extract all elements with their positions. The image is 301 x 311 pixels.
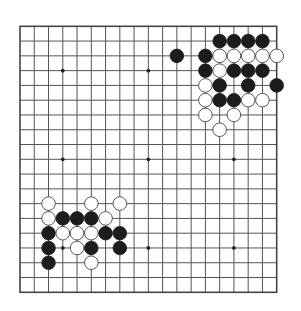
black-stone bbox=[227, 34, 241, 48]
white-stone bbox=[70, 226, 84, 240]
star-point bbox=[61, 157, 65, 161]
white-stone bbox=[199, 93, 213, 107]
black-stone bbox=[270, 79, 284, 93]
white-stone bbox=[213, 49, 227, 63]
black-stone bbox=[213, 93, 227, 107]
star-point bbox=[232, 246, 236, 250]
white-stone bbox=[199, 79, 213, 93]
star-point bbox=[61, 246, 65, 250]
white-stone bbox=[199, 108, 213, 122]
black-stone bbox=[113, 226, 127, 240]
black-stone bbox=[241, 64, 255, 78]
white-stone bbox=[213, 123, 227, 137]
star-point bbox=[146, 69, 150, 73]
black-stone bbox=[70, 212, 84, 226]
white-stone bbox=[42, 197, 56, 211]
white-stone bbox=[85, 226, 99, 240]
black-stone bbox=[42, 256, 56, 270]
white-stone bbox=[85, 256, 99, 270]
go-board[interactable] bbox=[0, 0, 301, 311]
white-stone bbox=[256, 93, 270, 107]
black-stone bbox=[42, 241, 56, 255]
black-stone bbox=[85, 241, 99, 255]
black-stone bbox=[256, 64, 270, 78]
white-stone bbox=[113, 197, 127, 211]
black-stone bbox=[213, 79, 227, 93]
white-stone bbox=[256, 49, 270, 63]
black-stone bbox=[241, 79, 255, 93]
black-stone bbox=[227, 64, 241, 78]
white-stone bbox=[270, 49, 284, 63]
black-stone bbox=[199, 49, 213, 63]
black-stone bbox=[85, 212, 99, 226]
black-stone bbox=[170, 49, 184, 63]
white-stone bbox=[70, 241, 84, 255]
black-stone bbox=[113, 241, 127, 255]
star-point bbox=[232, 157, 236, 161]
black-stone bbox=[213, 34, 227, 48]
black-stone bbox=[42, 226, 56, 240]
star-point bbox=[146, 246, 150, 250]
white-stone bbox=[85, 197, 99, 211]
black-stone bbox=[227, 93, 241, 107]
white-stone bbox=[227, 108, 241, 122]
star-point bbox=[61, 69, 65, 73]
black-stone bbox=[56, 212, 70, 226]
black-stone bbox=[199, 64, 213, 78]
white-stone bbox=[56, 226, 70, 240]
white-stone bbox=[213, 64, 227, 78]
star-point bbox=[146, 157, 150, 161]
black-stone bbox=[99, 226, 113, 240]
white-stone bbox=[227, 49, 241, 63]
black-stone bbox=[256, 34, 270, 48]
black-stone bbox=[241, 34, 255, 48]
white-stone bbox=[241, 93, 255, 107]
white-stone bbox=[42, 212, 56, 226]
white-stone bbox=[241, 49, 255, 63]
white-stone bbox=[99, 212, 113, 226]
